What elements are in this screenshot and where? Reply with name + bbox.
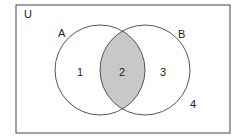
set-a-label: A (58, 27, 66, 39)
region-3-label: 3 (160, 66, 166, 78)
region-4-label: 4 (190, 98, 196, 110)
set-b-label: B (178, 28, 185, 40)
venn-diagram: U A B 1 2 3 4 (0, 0, 242, 139)
region-1-label: 1 (77, 66, 83, 78)
universe-label: U (24, 8, 32, 20)
region-2-label: 2 (119, 66, 125, 78)
